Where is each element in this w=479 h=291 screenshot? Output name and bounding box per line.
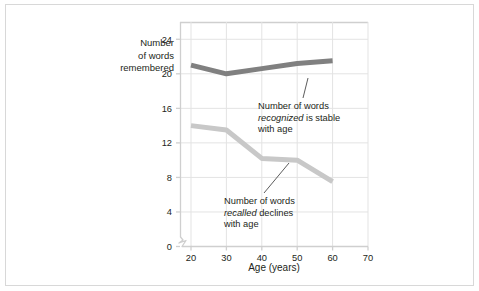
y-axis-title-line-3: remembered — [96, 62, 174, 75]
annotation-recognized-line-3: with age — [258, 124, 340, 136]
y-axis-title-line-2: of words — [96, 50, 174, 63]
svg-text:30: 30 — [221, 253, 231, 263]
annotation-recognized-line-2-rest: is stable — [303, 113, 340, 123]
svg-text:50: 50 — [292, 253, 302, 263]
y-axis-title-line-1: Number — [96, 37, 174, 50]
svg-text:70: 70 — [363, 253, 373, 263]
annotation-recalled-line-3: with age — [224, 219, 295, 231]
svg-text:8: 8 — [167, 173, 172, 183]
svg-text:12: 12 — [162, 138, 172, 148]
svg-text:20: 20 — [186, 253, 196, 263]
line-chart-canvas: 04812162024 203040506070 — [0, 0, 479, 291]
svg-text:60: 60 — [327, 253, 337, 263]
annotation-recalled: Number of words recalled declines with a… — [224, 196, 295, 231]
svg-text:40: 40 — [257, 253, 267, 263]
y-axis-title: Number of words remembered — [96, 37, 174, 75]
annotation-recognized-emphasis: recognized — [258, 113, 303, 123]
annotation-recalled-line-1: Number of words — [224, 196, 295, 208]
annotation-recalled-line-2: recalled declines — [224, 208, 295, 220]
svg-text:16: 16 — [162, 104, 172, 114]
annotation-recognized: Number of words recognized is stable wit… — [258, 101, 340, 136]
leader-line-recognized — [303, 78, 308, 98]
annotation-recalled-line-2-rest: declines — [257, 208, 294, 218]
axis-break-zigzag — [179, 237, 191, 247]
annotation-recognized-line-1: Number of words — [258, 101, 340, 113]
chart-figure: 04812162024 203040506070 Number of words… — [0, 0, 479, 291]
annotation-recalled-emphasis: recalled — [224, 208, 257, 218]
svg-text:4: 4 — [167, 207, 172, 217]
svg-text:0: 0 — [167, 242, 172, 252]
leader-line-recalled — [264, 163, 289, 193]
annotation-recognized-line-2: recognized is stable — [258, 113, 340, 125]
x-axis-ticks: 203040506070 — [186, 247, 373, 263]
x-axis-title: Age (years) — [214, 262, 334, 275]
